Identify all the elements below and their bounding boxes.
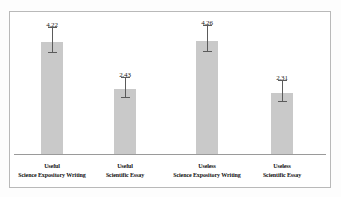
category-label: Useless Scientific Essay bbox=[223, 162, 341, 179]
bar-group: 4.22 Useful Science Expository Writing bbox=[41, 12, 63, 187]
bar[interactable] bbox=[196, 41, 218, 154]
bar-value-label: 2.43 bbox=[102, 71, 148, 79]
category-label-line1: Useless bbox=[223, 162, 341, 171]
bar-value-label: 4.26 bbox=[184, 19, 230, 27]
bar-value-label: 4.22 bbox=[29, 21, 75, 29]
error-bar-cap-bottom bbox=[203, 51, 212, 52]
error-bar-cap-bottom bbox=[48, 52, 57, 53]
error-bar bbox=[207, 25, 208, 52]
plot-area: 4.22 Useful Science Expository Writing 2… bbox=[10, 12, 330, 187]
error-bar bbox=[282, 80, 283, 101]
error-bar bbox=[125, 77, 126, 98]
error-bar bbox=[52, 27, 53, 53]
category-label-line2: Scientific Essay bbox=[223, 171, 341, 180]
bar[interactable] bbox=[114, 89, 136, 154]
chart-figure: 4.22 Useful Science Expository Writing 2… bbox=[0, 0, 341, 197]
chart-frame: 4.22 Useful Science Expository Writing 2… bbox=[9, 11, 331, 188]
error-bar-cap-bottom bbox=[121, 97, 130, 98]
bar[interactable] bbox=[271, 93, 293, 154]
bar-group: 4.26 Useless Science Expository Writing bbox=[196, 12, 218, 187]
bar-group: 2.43 Useful Scientific Essay bbox=[114, 12, 136, 187]
bar-value-label: 2.31 bbox=[259, 74, 305, 82]
bar-group: 2.31 Useless Scientific Essay bbox=[271, 12, 293, 187]
bar[interactable] bbox=[41, 42, 63, 154]
error-bar-cap-bottom bbox=[278, 101, 287, 102]
